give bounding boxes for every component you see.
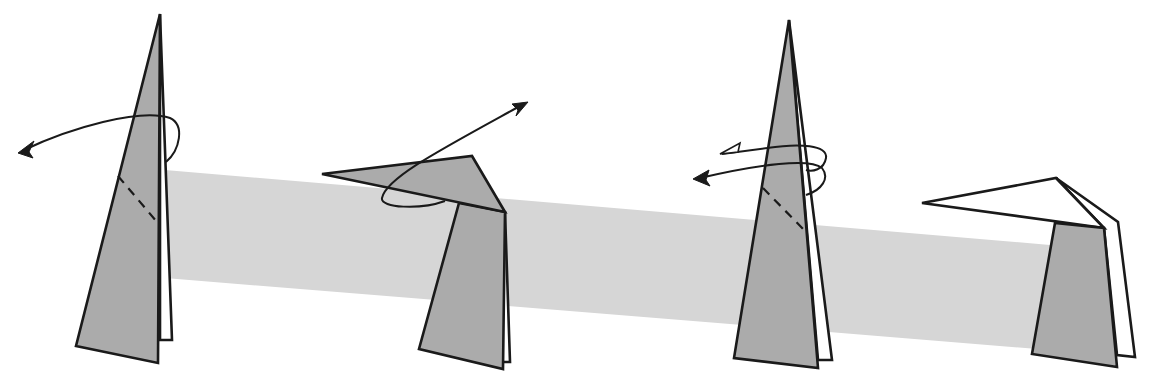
step-1 xyxy=(18,14,179,363)
step-1-arrowhead-icon xyxy=(18,141,34,158)
step-3-open-arrowhead-icon xyxy=(720,143,740,154)
background-band xyxy=(165,170,1050,350)
step-4-folded-flap xyxy=(922,178,1104,228)
diagram-canvas xyxy=(0,0,1153,385)
step-1-front-flap xyxy=(76,14,160,363)
step-3-arrowhead-icon xyxy=(693,170,710,186)
origami-diagram xyxy=(0,0,1153,385)
